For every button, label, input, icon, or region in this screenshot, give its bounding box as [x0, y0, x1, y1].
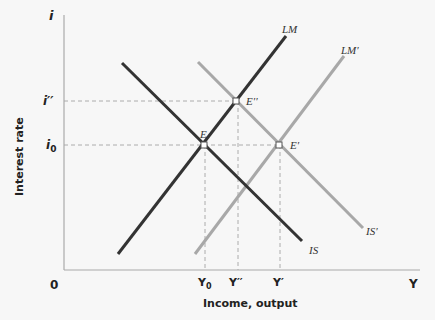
lm-prime-curve [195, 56, 344, 254]
lm-label: LM [281, 23, 298, 35]
y-axis-symbol: i [49, 8, 54, 23]
x-axis-symbol: Y [408, 277, 418, 291]
tick-y-double-prime: Y′′ [228, 276, 243, 289]
point-e-double-prime [233, 98, 239, 104]
origin-label: 0 [50, 278, 58, 292]
lm-prime-label: LM′ [340, 44, 359, 56]
point-e-prime [276, 142, 282, 148]
tick-i-double-prime: i′′ [43, 94, 54, 108]
e-double-prime-label: E′′ [245, 95, 258, 107]
tick-i0: i0 [46, 138, 56, 154]
point-e [201, 142, 207, 148]
tick-y0-sub: 0 [206, 282, 212, 291]
y-axis-title: Interest rate [13, 117, 26, 196]
x-axis-title: Income, output [203, 297, 298, 310]
tick-y-prime: Y′ [272, 276, 284, 289]
tick-y0: Y0 [197, 276, 212, 291]
tick-i0-sub: 0 [50, 144, 56, 154]
is-lm-diagram: LM IS LM′ IS′ E E′′ E′ i Y 0 i′′ i0 Y0 Y… [0, 0, 435, 320]
e-label: E [199, 128, 207, 140]
is-prime-label: IS′ [365, 225, 378, 237]
e-prime-label: E′ [289, 139, 300, 151]
is-label: IS [308, 244, 319, 256]
